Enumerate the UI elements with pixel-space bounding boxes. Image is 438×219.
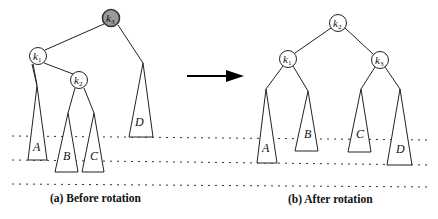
subtree-C — [348, 89, 371, 152]
after-tree: A B C D k2 k1 k3 — [257, 15, 412, 166]
subtree-B — [295, 91, 318, 151]
svg-text:A: A — [32, 140, 41, 154]
right-arrow-icon — [187, 70, 244, 82]
svg-text:B: B — [63, 149, 71, 163]
before-tree: A B C D k3 k1 k2 — [28, 10, 153, 173]
rotation-diagram: A B C D k3 k1 k2 A B — [0, 0, 438, 219]
caption-after: (b) After rotation — [288, 193, 373, 205]
svg-text:C: C — [90, 149, 99, 163]
svg-text:D: D — [134, 115, 144, 129]
svg-text:B: B — [304, 127, 312, 141]
node-k2: k2 — [71, 72, 88, 89]
node-k1: k1 — [280, 51, 297, 68]
svg-text:D: D — [395, 142, 405, 156]
caption-before: (a) Before rotation — [50, 192, 141, 204]
node-k2-root: k2 — [330, 15, 347, 32]
subtree-C — [82, 113, 104, 172]
node-k3: k3 — [372, 52, 389, 69]
node-k1: k1 — [30, 48, 47, 65]
level-line-3 — [12, 184, 432, 187]
node-k3-highlighted: k3 — [103, 10, 120, 27]
svg-text:A: A — [261, 141, 270, 155]
subtree-B — [55, 113, 78, 172]
svg-text:C: C — [356, 127, 365, 141]
